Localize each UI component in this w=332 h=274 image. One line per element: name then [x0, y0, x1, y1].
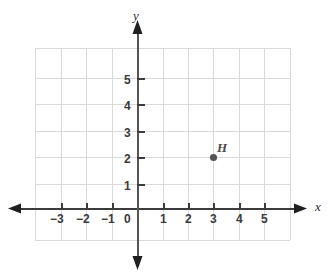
x-tick-label-5: 5	[261, 213, 268, 225]
y-axis-label: y	[133, 9, 139, 22]
y-tick-label-3: 3	[124, 127, 131, 139]
x-tick-label--2: −2	[76, 213, 90, 225]
x-axis-arrow-left	[8, 204, 21, 214]
x-tick-label-0: 0	[124, 213, 131, 225]
y-tick-label-1: 1	[124, 180, 131, 192]
y-axis-arrow-down	[133, 256, 143, 270]
y-tick-label-2: 2	[124, 153, 131, 165]
y-tick-label-5: 5	[124, 74, 131, 86]
x-axis-arrow-right	[294, 204, 307, 214]
x-tick-label--1: −1	[101, 213, 115, 225]
y-tick-label-4: 4	[124, 100, 131, 112]
y-axis	[133, 20, 143, 270]
data-point-label-h: H	[217, 141, 227, 154]
x-tick-label--3: −3	[50, 213, 64, 225]
x-tick-label-3: 3	[210, 213, 217, 225]
x-tick-label-1: 1	[160, 213, 167, 225]
x-tick-label-2: 2	[185, 213, 192, 225]
x-tick-label-4: 4	[236, 213, 243, 225]
graph-canvas	[0, 0, 332, 274]
coordinate-plane-graph: −3 −2 −1 0 1 2 3 4 5 1 2 3 4 5 y x H	[0, 0, 332, 274]
x-axis-label: x	[315, 200, 321, 213]
